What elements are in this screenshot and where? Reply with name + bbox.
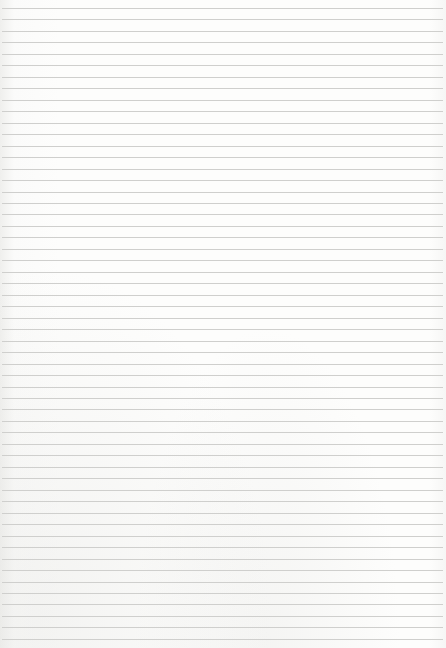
- ruled-line: [2, 214, 443, 215]
- ruled-line: [2, 604, 443, 605]
- ruled-line: [2, 627, 443, 628]
- ruled-line: [2, 352, 443, 353]
- ruled-line: [2, 77, 443, 78]
- ruled-line: [2, 31, 443, 32]
- ruled-line: [2, 444, 443, 445]
- ruled-line: [2, 54, 443, 55]
- ruled-line: [2, 100, 443, 101]
- ruled-line: [2, 582, 443, 583]
- ruled-line: [2, 295, 443, 296]
- ruled-line: [2, 478, 443, 479]
- ruled-line: [2, 272, 443, 273]
- ruled-line: [2, 421, 443, 422]
- ruled-line: [2, 157, 443, 158]
- ruled-line: [2, 455, 443, 456]
- ruled-line: [2, 192, 443, 193]
- ruled-line: [2, 341, 443, 342]
- ruled-line: [2, 513, 443, 514]
- ruled-line: [2, 524, 443, 525]
- ruled-line: [2, 306, 443, 307]
- ruled-line: [2, 364, 443, 365]
- ruled-line: [2, 318, 443, 319]
- ruled-line: [2, 501, 443, 502]
- ruled-line: [2, 536, 443, 537]
- ruled-line: [2, 570, 443, 571]
- ruled-line: [2, 8, 443, 9]
- ruled-line: [2, 111, 443, 112]
- ruled-line: [2, 237, 443, 238]
- ruled-line: [2, 203, 443, 204]
- ruled-line: [2, 559, 443, 560]
- ruled-line: [2, 283, 443, 284]
- lined-paper-sheet: [0, 0, 446, 648]
- ruled-line: [2, 639, 443, 640]
- ruled-line: [2, 490, 443, 491]
- ruled-line: [2, 65, 443, 66]
- ruled-line: [2, 134, 443, 135]
- ruled-line: [2, 88, 443, 89]
- ruled-line: [2, 593, 443, 594]
- ruled-line: [2, 260, 443, 261]
- ruled-line: [2, 375, 443, 376]
- ruled-line: [2, 19, 443, 20]
- ruled-line: [2, 329, 443, 330]
- ruled-line: [2, 616, 443, 617]
- ruled-line: [2, 169, 443, 170]
- ruled-line: [2, 398, 443, 399]
- ruled-line: [2, 409, 443, 410]
- ruled-line: [2, 123, 443, 124]
- ruled-line: [2, 432, 443, 433]
- ruled-line: [2, 249, 443, 250]
- ruled-line: [2, 226, 443, 227]
- ruled-line: [2, 180, 443, 181]
- ruled-line: [2, 467, 443, 468]
- ruled-line: [2, 387, 443, 388]
- ruled-line: [2, 42, 443, 43]
- ruled-line: [2, 146, 443, 147]
- ruled-line: [2, 547, 443, 548]
